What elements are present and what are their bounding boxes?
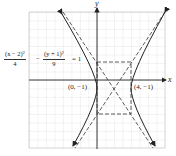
equation-term1: (x − 2)² 4 [4,51,26,67]
equation-rhs: = 1 [72,56,81,63]
x-axis-label: x [168,76,172,84]
y-axis-label: y [95,0,99,8]
hyperbola-graph [0,0,176,156]
equation-term2: (y + 1)² 9 [43,51,65,67]
vertex-label-left: (0, −1) [68,84,87,91]
equation-minus: − [36,56,40,63]
vertex-label-right: (4, −1) [134,84,153,91]
